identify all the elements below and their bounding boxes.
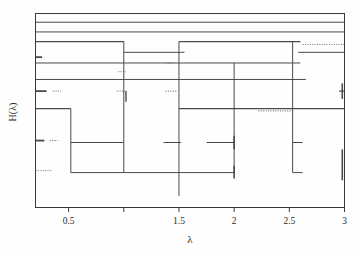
x-tick-label: 3	[342, 216, 347, 226]
plot-frame	[36, 14, 345, 208]
x-axis-title: λ	[187, 233, 193, 245]
x-tick-label: 2	[232, 216, 237, 226]
figure-container: 0.51.522.53 λ H(λ)	[0, 0, 359, 255]
x-tick-label: 0.5	[63, 216, 75, 226]
axis-frame	[36, 14, 345, 208]
plot-content	[36, 22, 345, 196]
x-tick-label-group: 0.51.522.53	[63, 216, 347, 226]
y-axis-title: H(λ)	[7, 103, 19, 122]
plot-svg: 0.51.522.53 λ H(λ)	[0, 0, 359, 255]
x-tick-label: 2.5	[283, 216, 295, 226]
x-tick-group	[69, 208, 345, 213]
x-tick-label: 1.5	[173, 216, 185, 226]
